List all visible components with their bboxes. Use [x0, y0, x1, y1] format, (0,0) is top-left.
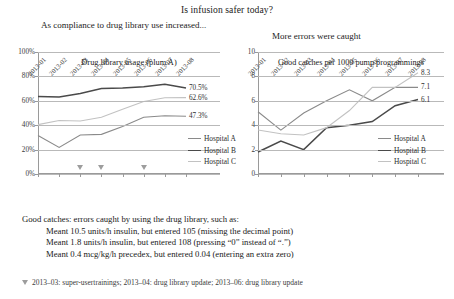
- x-tick-mark: [372, 174, 373, 177]
- figure-root: Is infusion safer today? As compliance t…: [0, 0, 454, 299]
- chart-drug-library-usage: Drug library usage (plum A) 0%20%40%60%8…: [8, 48, 228, 208]
- series-line-hospital-b: [38, 84, 186, 97]
- legend-item-hospital-a-left[interactable]: Hospital A: [188, 133, 236, 145]
- legend-swatch-icon: [188, 161, 201, 162]
- figure-title: Is infusion safer today?: [0, 4, 454, 15]
- x-tick-mark: [258, 174, 259, 177]
- y-axis-tick-label: 60%: [22, 97, 35, 105]
- y-tick-mark: [255, 52, 258, 53]
- x-tick-mark: [186, 174, 187, 177]
- left-panel-caption: As compliance to drug library use increa…: [41, 20, 211, 31]
- legend-swatch-icon: [378, 150, 391, 151]
- annotation-triangle-icon: [77, 165, 83, 170]
- y-axis-tick-label: 10: [248, 48, 255, 56]
- x-tick-mark: [101, 174, 102, 177]
- legend-label: Hospital B: [394, 146, 426, 155]
- legend-left: Hospital AHospital BHospital C: [188, 133, 236, 168]
- triangle-marker-icon: [22, 280, 28, 285]
- legend-right: Hospital AHospital BHospital C: [378, 133, 426, 168]
- y-tick-mark: [255, 150, 258, 151]
- legend-item-hospital-b-left[interactable]: Hospital B: [188, 145, 236, 157]
- y-tick-mark: [255, 101, 258, 102]
- legend-label: Hospital C: [394, 157, 426, 166]
- x-tick-mark: [123, 174, 124, 177]
- x-tick-mark: [38, 174, 39, 177]
- y-axis-tick-label: 40%: [22, 121, 35, 129]
- x-tick-mark: [281, 174, 282, 177]
- x-tick-mark: [327, 174, 328, 177]
- gridline: [258, 174, 444, 175]
- y-tick-mark: [255, 125, 258, 126]
- notes-intro: Good catches: errors caught by using the…: [22, 214, 442, 226]
- legend-item-hospital-c-left[interactable]: Hospital C: [188, 156, 236, 168]
- legend-swatch-icon: [188, 150, 201, 151]
- right-panel-caption: More errors were caught: [272, 31, 452, 42]
- y-tick-mark: [35, 76, 38, 77]
- annotation-triangle-icon: [98, 165, 104, 170]
- x-tick-mark: [395, 174, 396, 177]
- y-tick-mark: [35, 125, 38, 126]
- legend-label: Hospital A: [204, 134, 236, 143]
- series-line-hospital-a: [258, 87, 418, 130]
- note-example-1: Meant 10.5 units/h insulin, but entered …: [22, 226, 442, 238]
- footnote-text: 2013–03: super-usertrainings; 2013–04: d…: [32, 278, 303, 288]
- end-value-label: 70.5%: [189, 84, 208, 92]
- legend-label: Hospital C: [204, 157, 236, 166]
- y-tick-mark: [35, 52, 38, 53]
- y-axis-tick-label: 100%: [18, 48, 35, 56]
- legend-label: Hospital A: [394, 134, 426, 143]
- gridline: [38, 76, 220, 77]
- legend-swatch-icon: [378, 138, 391, 139]
- gridline: [258, 101, 444, 102]
- x-tick-mark: [59, 174, 60, 177]
- legend-item-hospital-a-right[interactable]: Hospital A: [378, 133, 426, 145]
- end-value-label: 8.3: [421, 69, 430, 77]
- x-tick-mark: [304, 174, 305, 177]
- y-tick-mark: [255, 76, 258, 77]
- x-tick-mark: [80, 174, 81, 177]
- gridline: [258, 125, 444, 126]
- end-value-label: 62.6%: [189, 94, 208, 102]
- legend-swatch-icon: [188, 138, 201, 139]
- legend-item-hospital-b-right[interactable]: Hospital B: [378, 145, 426, 157]
- gridline: [38, 52, 220, 53]
- x-tick-mark: [165, 174, 166, 177]
- y-tick-mark: [35, 101, 38, 102]
- x-tick-mark: [418, 174, 419, 177]
- y-axis-tick-label: 2: [251, 146, 255, 154]
- notes-block: Good catches: errors caught by using the…: [22, 214, 442, 260]
- gridline: [258, 52, 444, 53]
- y-axis-tick-label: 0: [251, 170, 255, 178]
- y-axis-tick-label: 4: [251, 121, 255, 129]
- end-value-label: 47.3%: [189, 112, 208, 120]
- gridline: [38, 174, 220, 175]
- end-value-label: 6.1: [421, 96, 430, 104]
- note-example-3: Meant 0.4 mcg/kg/h precedex, but entered…: [22, 249, 442, 261]
- end-value-label: 7.1: [421, 83, 430, 91]
- gridline: [258, 76, 444, 77]
- chart-good-catches: Good catches per 1000 pump programmings …: [230, 48, 452, 208]
- y-axis-tick-label: 6: [251, 97, 255, 105]
- footnote: 2013–03: super-usertrainings; 2013–04: d…: [22, 278, 440, 288]
- legend-label: Hospital B: [204, 146, 236, 155]
- y-axis-tick-label: 20%: [22, 146, 35, 154]
- y-axis-tick-label: 0%: [25, 170, 35, 178]
- x-tick-mark: [144, 174, 145, 177]
- y-tick-mark: [35, 150, 38, 151]
- note-example-2: Meant 1.8 units/h insulin, but entered 1…: [22, 237, 442, 249]
- legend-item-hospital-c-right[interactable]: Hospital C: [378, 156, 426, 168]
- x-tick-mark: [349, 174, 350, 177]
- legend-swatch-icon: [378, 161, 391, 162]
- gridline: [38, 125, 220, 126]
- annotation-triangle-icon: [141, 165, 147, 170]
